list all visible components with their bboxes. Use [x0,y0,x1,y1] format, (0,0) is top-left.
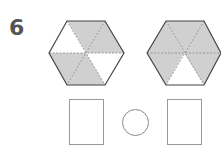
left-fraction-answer-box[interactable] [69,99,104,145]
hexagon-right [147,21,221,85]
hexagon-left [49,21,124,85]
right-fraction-answer-box[interactable] [167,99,202,145]
comparison-symbol-circle[interactable] [122,109,149,136]
